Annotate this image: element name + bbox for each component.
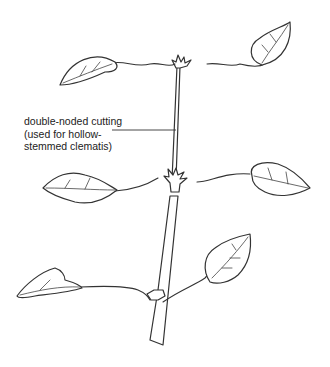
leaf-top-left (60, 57, 175, 85)
cutting-label: double-noded cutting (used for hollow- s… (24, 115, 122, 153)
label-line-1: double-noded cutting (24, 115, 122, 128)
main-stem (147, 196, 178, 345)
leaf-top-right (207, 22, 290, 66)
label-line-3: stemmed clematis) (24, 140, 122, 153)
cutting-stem (172, 66, 180, 180)
leaf-mid-right (197, 163, 310, 196)
lower-node (164, 168, 187, 192)
plant-illustration (0, 0, 330, 367)
label-line-2: (used for hollow- (24, 128, 122, 141)
leaf-bottom-right (163, 234, 251, 302)
leaf-mid-left (43, 173, 158, 203)
top-node (172, 55, 191, 68)
leaf-bottom-left (17, 268, 150, 300)
